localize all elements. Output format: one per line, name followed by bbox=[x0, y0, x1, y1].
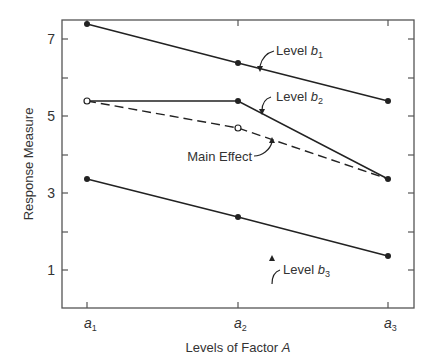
marker-open-a1 bbox=[84, 98, 90, 104]
series-b2-line bbox=[87, 101, 388, 179]
label-level-b1: Level b1 bbox=[276, 43, 323, 60]
annotation-leaders bbox=[254, 51, 280, 284]
x-tick-a2: a2 bbox=[234, 315, 247, 333]
series-main-effect-line bbox=[87, 101, 388, 179]
y-tick-1: 1 bbox=[47, 262, 55, 278]
interaction-chart: 7 5 3 1 Response Measure a1 a2 a3 Levels… bbox=[0, 0, 438, 361]
y-tick-7: 7 bbox=[47, 31, 55, 47]
x-tick-a3: a3 bbox=[384, 315, 397, 333]
annotation-arrowheads bbox=[257, 66, 275, 261]
y-axis-label: Response Measure bbox=[21, 108, 36, 221]
y-tick-5: 5 bbox=[47, 108, 55, 124]
x-axis-label: Levels of Factor A bbox=[186, 340, 291, 355]
marker-open-a2 bbox=[235, 125, 241, 131]
label-level-b3: Level b3 bbox=[283, 262, 330, 279]
label-main-effect: Main Effect bbox=[187, 149, 252, 164]
filled-markers bbox=[84, 21, 391, 259]
label-level-b2: Level b2 bbox=[276, 89, 323, 106]
y-tick-3: 3 bbox=[47, 185, 55, 201]
x-tick-a1: a1 bbox=[84, 315, 97, 333]
